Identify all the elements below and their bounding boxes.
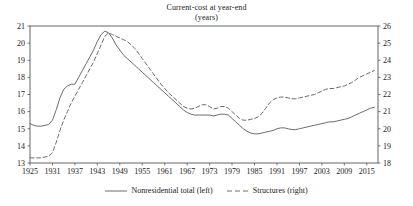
svg-text:23: 23 (383, 73, 391, 82)
chart-plot-area: 131415161718192021 181920212223242526 19… (0, 0, 413, 206)
svg-text:25: 25 (383, 39, 391, 48)
svg-text:17: 17 (17, 90, 25, 99)
legend-label-structures: Structures (right) (253, 186, 308, 195)
svg-text:1985: 1985 (247, 167, 263, 176)
series-line-1 (30, 33, 374, 158)
svg-text:21: 21 (17, 22, 25, 31)
svg-text:14: 14 (17, 142, 25, 151)
svg-text:1967: 1967 (179, 167, 195, 176)
svg-text:1997: 1997 (291, 167, 307, 176)
svg-text:24: 24 (383, 56, 391, 65)
chart-legend: Nonresidential total (left) Structures (… (0, 186, 413, 195)
svg-text:1931: 1931 (44, 167, 60, 176)
chart-figure: Current-cost at year-end (years) 1314151… (0, 0, 413, 206)
svg-text:1925: 1925 (22, 167, 38, 176)
svg-text:21: 21 (383, 107, 391, 116)
legend-swatch-dashed-icon (227, 188, 249, 194)
x-axis-ticks: 1925193119371943194919551961196719731979… (22, 163, 375, 176)
legend-item-structures: Structures (right) (227, 186, 308, 195)
svg-text:16: 16 (17, 107, 25, 116)
svg-text:19: 19 (17, 56, 25, 65)
legend-swatch-solid-icon (105, 188, 127, 194)
left-axis-ticks: 131415161718192021 (17, 22, 30, 168)
svg-text:1961: 1961 (157, 167, 173, 176)
legend-label-nonresidential-total: Nonresidential total (left) (131, 186, 212, 195)
svg-text:1943: 1943 (89, 167, 105, 176)
series-line-0 (30, 31, 374, 134)
svg-text:1949: 1949 (112, 167, 128, 176)
svg-text:1955: 1955 (134, 167, 150, 176)
svg-text:2009: 2009 (336, 167, 352, 176)
series-lines (30, 31, 374, 158)
svg-text:1991: 1991 (269, 167, 285, 176)
legend-item-nonresidential-total: Nonresidential total (left) (105, 186, 212, 195)
svg-text:1973: 1973 (202, 167, 218, 176)
svg-text:19: 19 (383, 142, 391, 151)
svg-text:20: 20 (17, 39, 25, 48)
svg-text:15: 15 (17, 125, 25, 134)
svg-text:20: 20 (383, 125, 391, 134)
right-axis-ticks: 181920212223242526 (378, 22, 391, 168)
svg-text:2015: 2015 (359, 167, 375, 176)
svg-text:18: 18 (383, 159, 391, 168)
svg-text:26: 26 (383, 22, 391, 31)
axis-frame (30, 26, 378, 163)
svg-text:18: 18 (17, 73, 25, 82)
svg-text:1937: 1937 (67, 167, 83, 176)
svg-text:2003: 2003 (314, 167, 330, 176)
svg-text:1979: 1979 (224, 167, 240, 176)
svg-text:22: 22 (383, 90, 391, 99)
